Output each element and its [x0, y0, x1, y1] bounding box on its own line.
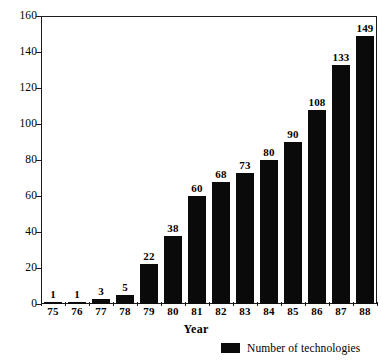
x-axis-tick-label: 80	[167, 306, 178, 317]
bars-layer: 113522386068738090108133149	[41, 16, 377, 304]
y-axis-tick-label: 120	[0, 82, 37, 94]
y-axis-tick-label: 60	[0, 190, 37, 202]
x-axis-tick-mark	[161, 302, 162, 306]
y-axis-tick-label: 100	[0, 118, 37, 130]
bar-78: 5	[116, 16, 134, 304]
x-axis-tick-label: 88	[359, 306, 370, 317]
bar-rect	[68, 302, 86, 305]
bar-rect	[140, 264, 158, 304]
bar-value-label: 68	[215, 169, 226, 180]
bar-value-label: 80	[263, 147, 274, 158]
bar-value-label: 5	[122, 282, 128, 293]
x-axis-tick-mark	[305, 302, 306, 306]
bar-rect	[212, 182, 230, 304]
x-axis-tick-label: 83	[239, 306, 250, 317]
x-axis-tick-label: 79	[143, 306, 154, 317]
bar-value-label: 38	[167, 223, 178, 234]
x-axis-tick-mark	[185, 302, 186, 306]
bar-84: 80	[260, 16, 278, 304]
bar-value-label: 90	[287, 129, 298, 140]
legend: Number of technologies	[221, 342, 360, 354]
x-axis-tick-label: 85	[287, 306, 298, 317]
bar-rect	[356, 36, 374, 304]
y-axis-tick-label: 160	[0, 10, 37, 22]
x-axis-tick-mark	[329, 302, 330, 306]
bar-75: 1	[44, 16, 62, 304]
bar-80: 38	[164, 16, 182, 304]
bar-77: 3	[92, 16, 110, 304]
bar-rect	[44, 302, 62, 305]
bar-chart: 020406080100120140160 113522386068738090…	[0, 0, 392, 363]
legend-swatch-number-of-technologies	[221, 343, 240, 353]
x-axis-tick-label: 75	[47, 306, 58, 317]
x-axis-tick-mark	[209, 302, 210, 306]
y-axis-tick-label: 80	[0, 154, 37, 166]
x-axis-tick-label: 86	[311, 306, 322, 317]
x-axis-tick-mark	[257, 302, 258, 306]
bar-rect	[92, 299, 110, 304]
x-axis: 7576777879808182838485868788	[41, 306, 377, 322]
x-axis-tick-label: 77	[95, 306, 106, 317]
bar-82: 68	[212, 16, 230, 304]
bar-rect	[116, 295, 134, 304]
x-axis-tick-mark	[281, 302, 282, 306]
y-axis: 020406080100120140160	[0, 0, 37, 320]
bar-value-label: 22	[143, 251, 154, 262]
y-axis-tick-label: 0	[0, 298, 37, 310]
x-axis-tick-label: 81	[191, 306, 202, 317]
bar-value-label: 1	[50, 289, 56, 300]
bar-rect	[188, 196, 206, 304]
x-axis-tick-mark	[377, 302, 378, 306]
bar-83: 73	[236, 16, 254, 304]
x-axis-tick-mark	[137, 302, 138, 306]
bar-rect	[260, 160, 278, 304]
bar-value-label: 3	[98, 286, 104, 297]
bar-79: 22	[140, 16, 158, 304]
x-axis-tick-label: 76	[71, 306, 82, 317]
x-axis-tick-mark	[65, 302, 66, 306]
bar-rect	[308, 110, 326, 304]
bar-value-label: 60	[191, 183, 202, 194]
bar-86: 108	[308, 16, 326, 304]
x-axis-tick-mark	[41, 302, 42, 306]
x-axis-tick-label: 87	[335, 306, 346, 317]
bar-81: 60	[188, 16, 206, 304]
bar-85: 90	[284, 16, 302, 304]
bar-value-label: 1	[74, 289, 80, 300]
bar-rect	[236, 173, 254, 304]
legend-label-number-of-technologies: Number of technologies	[247, 342, 360, 354]
x-axis-tick-label: 78	[119, 306, 130, 317]
bar-rect	[164, 236, 182, 304]
y-axis-tick-label: 140	[0, 46, 37, 58]
bar-value-label: 108	[308, 97, 325, 108]
bar-value-label: 149	[356, 23, 373, 34]
bar-rect	[284, 142, 302, 304]
y-axis-tick-label: 20	[0, 262, 37, 274]
bar-76: 1	[68, 16, 86, 304]
x-axis-tick-label: 84	[263, 306, 274, 317]
x-axis-tick-mark	[233, 302, 234, 306]
y-axis-tick-label: 40	[0, 226, 37, 238]
x-axis-tick-label: 82	[215, 306, 226, 317]
bar-87: 133	[332, 16, 350, 304]
bar-88: 149	[356, 16, 374, 304]
bar-value-label: 133	[332, 52, 349, 63]
x-axis-tick-mark	[353, 302, 354, 306]
bar-value-label: 73	[239, 160, 250, 171]
x-axis-title: Year	[0, 323, 392, 336]
x-axis-tick-mark	[89, 302, 90, 306]
bar-rect	[332, 65, 350, 304]
x-axis-tick-mark	[113, 302, 114, 306]
